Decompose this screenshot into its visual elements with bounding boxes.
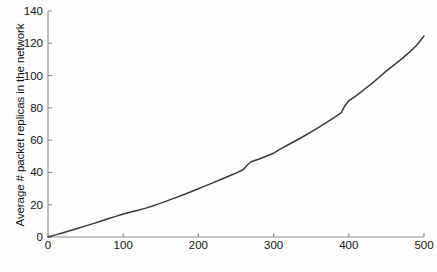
y-tick-marks <box>48 11 52 237</box>
x-tick-marks <box>48 233 424 237</box>
data-line-series <box>48 36 424 237</box>
chart-figure: Average # packet replicas in the network… <box>0 0 437 272</box>
axis-lines <box>48 11 424 237</box>
plot-area <box>0 0 437 272</box>
